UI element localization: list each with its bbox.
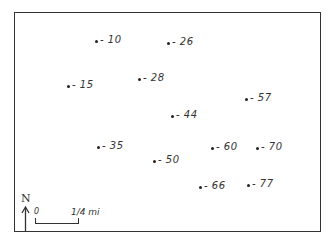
scale-start-label: 0: [34, 207, 39, 216]
point-marker-icon: [247, 184, 250, 187]
point-value-label: - 50: [158, 154, 180, 165]
scale-bar-line: [35, 218, 79, 224]
point-marker-icon: [95, 40, 98, 43]
point-value-label: - 57: [250, 92, 272, 103]
point-marker-icon: [199, 186, 202, 189]
point-value-label: - 70: [261, 141, 283, 152]
point-marker-icon: [97, 146, 100, 149]
point-marker-icon: [67, 85, 70, 88]
point-marker-icon: [138, 78, 141, 81]
point-value-label: - 77: [252, 178, 274, 189]
point-marker-icon: [171, 115, 174, 118]
point-value-label: - 35: [102, 140, 124, 151]
point-value-label: - 15: [72, 79, 94, 90]
point-value-label: - 26: [172, 36, 194, 47]
scale-bar: 0 1/4 mi: [35, 208, 145, 228]
point-value-label: - 66: [204, 180, 226, 191]
point-marker-icon: [256, 147, 259, 150]
north-arrow: N: [21, 192, 35, 232]
point-value-label: - 28: [143, 72, 165, 83]
scale-end-label: 1/4 mi: [71, 207, 100, 217]
point-value-label: - 10: [100, 34, 122, 45]
point-marker-icon: [167, 42, 170, 45]
point-marker-icon: [245, 98, 248, 101]
point-value-label: - 44: [176, 109, 198, 120]
point-value-label: - 60: [216, 141, 238, 152]
map-frame: [14, 12, 321, 232]
point-marker-icon: [211, 147, 214, 150]
point-marker-icon: [153, 160, 156, 163]
north-arrow-icon: [21, 192, 35, 232]
